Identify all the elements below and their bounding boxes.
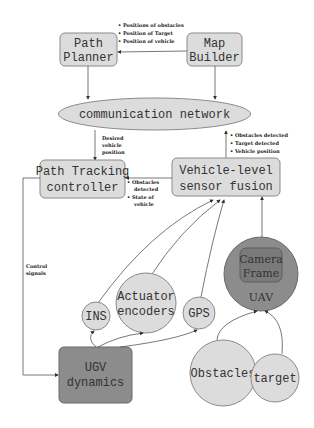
- communication-network-label: communication network: [79, 108, 230, 122]
- target-node: target: [251, 354, 299, 402]
- camera-label-1: Camera: [239, 253, 283, 266]
- svg-text:• Obstacles: • Obstacles: [127, 179, 159, 185]
- svg-text:vehicle: vehicle: [101, 142, 122, 148]
- svg-text:• Position of Target: • Position of Target: [118, 30, 174, 37]
- control-signals-arrow: [23, 178, 58, 375]
- svg-text:• Obstacles detected: • Obstacles detected: [230, 132, 289, 138]
- obstacles-node: Obstacles: [190, 340, 256, 406]
- obstacles-to-uav-arrow: [217, 311, 257, 340]
- sensor-fusion-label-1: Vehicle-level: [179, 164, 273, 178]
- ugv-to-ins-arrow: [90, 331, 96, 347]
- ins-node: INS: [82, 302, 110, 330]
- svg-text:• Position of vehicle: • Position of vehicle: [118, 38, 175, 44]
- fusion-to-tracking-notes: • Obstacles detected • State of vehicle: [127, 179, 159, 207]
- uav-label: UAV: [249, 291, 274, 304]
- path-tracking-label-2: controller: [46, 181, 118, 195]
- target-label: target: [253, 372, 296, 386]
- svg-text:signals: signals: [26, 270, 46, 277]
- path-planner-node: Path Planner: [60, 33, 117, 66]
- system-diagram: Path Planner Map Builder • Positions of …: [0, 0, 314, 428]
- map-to-planner-notes: • Positions of obstacles • Position of T…: [118, 22, 184, 44]
- ugv-dynamics-node: UGV dynamics: [59, 347, 132, 403]
- sensor-fusion-node: Vehicle-level sensor fusion: [172, 158, 280, 196]
- communication-network-node: communication network: [59, 98, 251, 130]
- actuator-to-fusion-arrow: [150, 200, 220, 277]
- actuator-label-2: encoders: [117, 305, 175, 319]
- gps-label: GPS: [188, 307, 210, 321]
- path-planner-label-2: Planner: [63, 51, 113, 65]
- uav-node: Camera Frame UAV: [224, 237, 298, 311]
- map-builder-label-2: Builder: [189, 51, 239, 65]
- ugv-label-2: dynamics: [67, 376, 125, 390]
- svg-text:• Positions of obstacles: • Positions of obstacles: [118, 22, 184, 28]
- sensor-fusion-label-2: sensor fusion: [179, 180, 273, 194]
- path-planner-label-1: Path: [74, 37, 103, 51]
- actuator-encoders-node: Actuator encoders: [116, 273, 176, 333]
- svg-text:Desired: Desired: [102, 135, 124, 141]
- camera-label-2: Frame: [243, 267, 279, 280]
- svg-text:position: position: [102, 149, 125, 156]
- gps-node: GPS: [183, 297, 215, 329]
- desired-position-notes: Desired vehicle position: [101, 135, 125, 156]
- svg-text:vehicle: vehicle: [133, 201, 154, 207]
- map-builder-node: Map Builder: [187, 33, 242, 66]
- ugv-to-gps-arrow: [120, 330, 197, 347]
- fusion-to-network-notes: • Obstacles detected • Target detected •…: [230, 132, 289, 155]
- map-builder-label-1: Map: [204, 37, 226, 51]
- path-tracking-label-1: Path Tracking: [36, 165, 130, 179]
- svg-text:• Vehicle position: • Vehicle position: [230, 148, 280, 155]
- actuator-label-1: Actuator: [117, 290, 175, 304]
- svg-text:• Target detected: • Target detected: [230, 140, 279, 147]
- ins-label: INS: [85, 310, 107, 324]
- svg-text:detected: detected: [134, 186, 159, 192]
- obstacles-label: Obstacles: [191, 367, 256, 381]
- path-tracking-controller-node: Path Tracking controller: [36, 160, 130, 198]
- target-to-uav-arrow: [265, 311, 282, 354]
- svg-text:• State of: • State of: [127, 194, 155, 200]
- control-signals-notes: Control signals: [26, 263, 47, 277]
- ugv-label-1: UGV: [85, 361, 107, 375]
- svg-text:Control: Control: [26, 263, 47, 269]
- map-to-planner-arrow: [118, 51, 187, 52]
- gps-to-fusion-arrow: [201, 200, 224, 297]
